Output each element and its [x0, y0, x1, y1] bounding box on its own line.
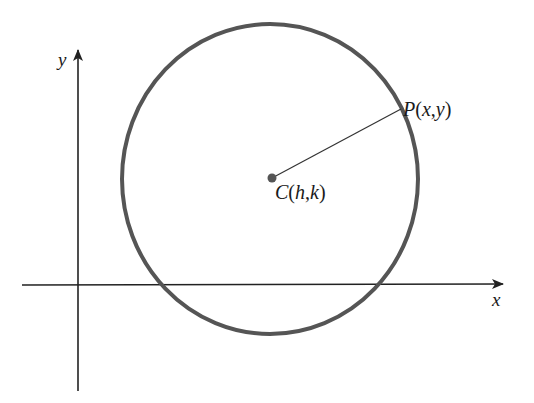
point-p-label: P(x,y)	[402, 98, 451, 121]
y-axis-label: y	[56, 49, 67, 70]
x-axis-label: x	[491, 289, 501, 310]
x-axis	[22, 284, 503, 285]
radius-segment	[272, 109, 401, 178]
circle-diagram: y x P(x,y) C(h,k)	[0, 0, 534, 403]
center-c-label: C(h,k)	[275, 181, 326, 204]
